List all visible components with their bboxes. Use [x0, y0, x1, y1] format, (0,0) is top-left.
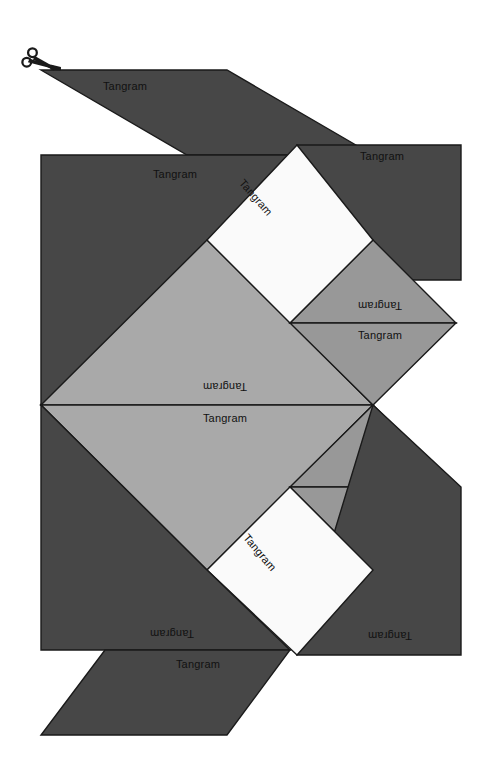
- label-top-parallelogram: Tangram: [103, 80, 147, 92]
- label-lower-left-rect-dark: Tangram: [150, 628, 194, 640]
- piece-bottom-parallelogram[interactable]: [41, 650, 290, 735]
- label-bottom-parallelogram: Tangram: [176, 658, 220, 670]
- scissors-icon: [22, 48, 61, 70]
- label-center-large-tri-dn: Tangram: [203, 412, 247, 424]
- piece-top-parallelogram[interactable]: [41, 70, 373, 155]
- label-upper-left-rect-dark: Tangram: [153, 168, 197, 180]
- label-upper-right-tri-med-up: Tangram: [358, 300, 402, 312]
- label-upper-right-rect-dark: Tangram: [360, 150, 404, 162]
- label-lower-right-rect-dark: Tangram: [368, 630, 412, 642]
- label-upper-right-tri-med-dn: Tangram: [358, 329, 402, 341]
- tangram-template-sheet: Tangram Tangram Tangram Tangram Tangram …: [0, 0, 490, 775]
- tangram-diagram: Tangram Tangram Tangram Tangram Tangram …: [0, 0, 490, 775]
- label-center-large-tri-up: Tangram: [203, 381, 247, 393]
